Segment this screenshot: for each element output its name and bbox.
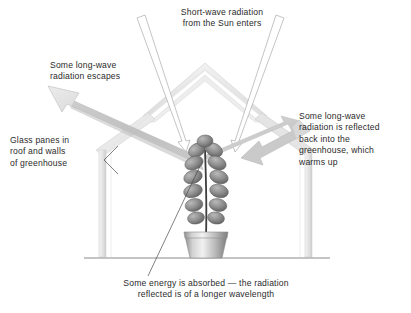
annotation-short-wave-radiation: Short-wave radiation from the Sun enters [157, 7, 287, 30]
annotation-long-wave-reflected: Some long-wave radiation is reflected ba… [299, 111, 407, 168]
annotation-energy-absorbed: Some energy is absorbed — the radiation … [93, 278, 319, 301]
annotation-glass-panes: Glass panes in roof and walls of greenho… [10, 135, 110, 169]
annotation-long-wave-escapes: Some long-wave radiation escapes [50, 60, 170, 83]
plant-pot [184, 232, 228, 258]
plant-stem [205, 150, 206, 236]
potted-plant [182, 134, 230, 258]
greenhouse-effect-diagram: Short-wave radiation from the Sun enters… [0, 0, 411, 313]
